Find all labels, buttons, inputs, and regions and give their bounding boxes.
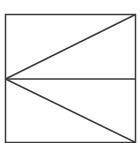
lower-diagonal-line	[6, 79, 136, 143]
upper-diagonal-line	[6, 15, 136, 80]
diagram-canvas	[0, 0, 140, 143]
geometric-figure	[0, 0, 140, 143]
